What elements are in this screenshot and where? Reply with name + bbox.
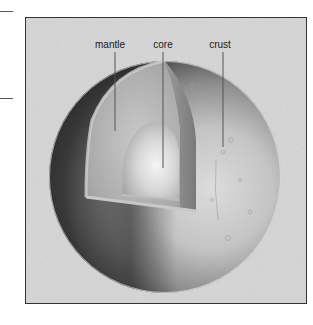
label-core: core — [153, 39, 173, 50]
label-crust: crust — [209, 39, 231, 50]
label-mantle: mantle — [95, 39, 125, 50]
planet-diagram: mantle core crust — [0, 0, 313, 325]
